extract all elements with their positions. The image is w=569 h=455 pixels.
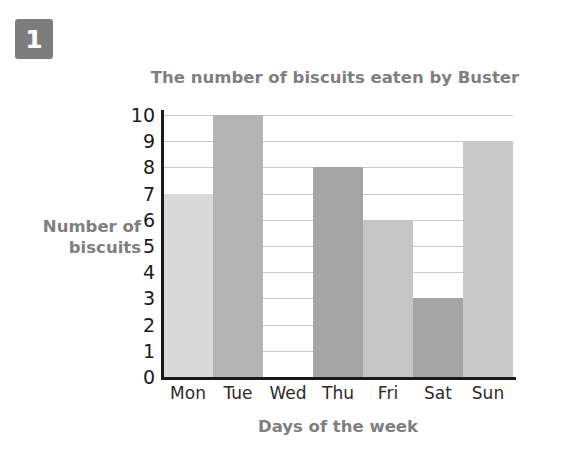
x-axis-tick-label: Tue [213,383,263,403]
y-axis-tick-label: 4 [115,263,155,282]
y-axis-tick-label: 10 [115,106,155,125]
x-axis-tick-label: Wed [263,383,313,403]
y-axis-tick-label: 2 [115,316,155,335]
y-axis-tick-label: 9 [115,132,155,151]
y-axis-line [161,110,164,379]
bar-sat [413,298,463,377]
chart-title: The number of biscuits eaten by Buster [120,68,550,87]
bar-cell [463,115,513,377]
bar-cell [263,115,313,377]
bar-cell [313,115,363,377]
y-axis-tick-label: 0 [115,368,155,387]
bar-fri [363,220,413,377]
x-axis-tick-label: Fri [363,383,413,403]
bar-thu [313,167,363,377]
bar-cell [213,115,263,377]
bar-sun [463,141,513,377]
bar-cell [363,115,413,377]
plot-area [163,115,513,377]
bar-cell [163,115,213,377]
x-axis-tick-label: Mon [163,383,213,403]
x-axis-tick-label: Thu [313,383,363,403]
x-axis-tick-label: Sun [463,383,513,403]
x-axis-tick-labels: MonTueWedThuFriSatSun [163,383,513,403]
bar-series [163,115,513,377]
y-axis-tick-label: 5 [115,237,155,256]
bar-cell [413,115,463,377]
y-axis-tick-label: 1 [115,342,155,361]
bar-tue [213,115,263,377]
x-axis-title: Days of the week [163,417,513,436]
bar-mon [163,194,213,377]
y-axis-tick-label: 3 [115,289,155,308]
y-axis-tick-label: 6 [115,211,155,230]
y-axis-tick-label: 7 [115,185,155,204]
x-axis-tick-label: Sat [413,383,463,403]
y-axis-tick-labels: 109876543210 [110,0,155,455]
x-axis-line [161,377,516,380]
bar-chart: The number of biscuits eaten by Buster N… [0,0,569,455]
y-axis-tick-label: 8 [115,158,155,177]
